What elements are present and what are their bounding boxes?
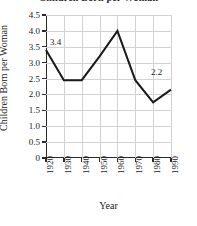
plot-area: 4.54.03.53.02.52.01.51.00.50 19201930194… <box>46 15 171 158</box>
x-axis-tick-label: 1980 <box>153 165 171 174</box>
y-axis-tick-label: 1.5 <box>29 106 40 115</box>
data-point-label: 3.4 <box>50 38 61 47</box>
y-axis-tick-label: 3.5 <box>29 42 40 51</box>
x-axis-title: Year <box>46 200 171 212</box>
x-axis-tick-label: 1970 <box>135 165 153 174</box>
data-point-label: 2.2 <box>151 68 162 77</box>
x-axis-tick-label: 1950 <box>100 165 118 174</box>
y-axis-tick-label: 1.0 <box>29 122 40 131</box>
y-axis-tick-label: 3.0 <box>29 58 40 67</box>
gridline-vertical <box>171 15 172 158</box>
x-axis-tick-label: 1940 <box>82 165 100 174</box>
x-axis-tick-label: 1930 <box>64 165 82 174</box>
chart-figure: Children Born per Woman 4.54.03.53.02.52… <box>0 0 197 226</box>
y-axis-tick-label: 0 <box>36 154 41 163</box>
y-axis-tick-label: 2.0 <box>29 90 40 99</box>
x-axis-tick-label: 1920 <box>46 165 64 174</box>
chart-title-clipped: Children Born per Woman <box>0 0 197 5</box>
y-axis-tick-label: 4.0 <box>29 26 40 35</box>
y-axis-title: Children Born per Woman <box>0 16 10 140</box>
data-series-line <box>46 15 171 158</box>
x-axis-tick-label: 1960 <box>117 165 135 174</box>
x-axis-tick-label: 1990 <box>171 165 189 174</box>
chart-title-text: Children Born per Woman <box>39 0 158 3</box>
y-axis-tick-label: 4.5 <box>29 11 40 20</box>
y-axis-tick-label: 0.5 <box>29 138 40 147</box>
y-axis-tick-label: 2.5 <box>29 74 40 83</box>
